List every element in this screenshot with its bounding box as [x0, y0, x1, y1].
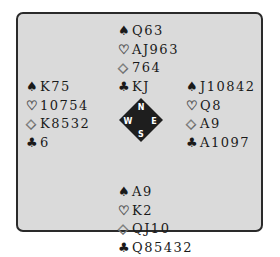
west-diamonds: ◇K8532 [26, 115, 90, 134]
west-clubs-cards: 6 [40, 135, 50, 150]
south-clubs-cards: Q85432 [132, 240, 193, 255]
club-icon: ♣ [186, 134, 200, 153]
diamond-icon: ◇ [118, 220, 132, 239]
east-hearts: ♡Q8 [186, 97, 256, 116]
south-spades: ♠A9 [118, 183, 193, 202]
south-hearts-cards: K2 [132, 203, 153, 218]
north-clubs: ♣KJ [118, 78, 179, 97]
east-spades-cards: J10842 [200, 79, 256, 94]
west-clubs: ♣6 [26, 134, 90, 153]
south-hearts: ♡K2 [118, 202, 193, 221]
compass-west: W [124, 117, 133, 126]
east-clubs-cards: A1097 [200, 135, 250, 150]
north-hand: ♠Q63 ♡AJ963 ◇764 ♣KJ [118, 22, 179, 96]
west-hearts-cards: 10754 [40, 98, 89, 113]
spade-icon: ♠ [118, 183, 132, 202]
south-diamonds: ◇QJ10 [118, 220, 193, 239]
compass-rose: N S W E [118, 97, 164, 143]
north-spades: ♠Q63 [118, 22, 179, 41]
east-hearts-cards: Q8 [200, 98, 222, 113]
east-diamonds: ◇A9 [186, 115, 256, 134]
east-hand: ♠J10842 ♡Q8 ◇A9 ♣A1097 [186, 78, 256, 152]
heart-icon: ♡ [186, 97, 200, 116]
heart-icon: ♡ [118, 41, 132, 60]
north-spades-cards: Q63 [132, 23, 164, 38]
north-hearts: ♡AJ963 [118, 41, 179, 60]
north-diamonds-cards: 764 [132, 60, 161, 75]
club-icon: ♣ [26, 134, 40, 153]
club-icon: ♣ [118, 78, 132, 97]
heart-icon: ♡ [26, 97, 40, 116]
south-diamonds-cards: QJ10 [132, 221, 170, 236]
compass-north: N [138, 103, 145, 112]
club-icon: ♣ [118, 239, 132, 257]
south-hand: ♠A9 ♡K2 ◇QJ10 ♣Q85432 [118, 183, 193, 257]
east-diamonds-cards: A9 [200, 116, 221, 131]
west-hearts: ♡10754 [26, 97, 90, 116]
spade-icon: ♠ [118, 22, 132, 41]
compass-diamond-icon: N S W E [118, 97, 164, 143]
compass-south: S [138, 130, 144, 139]
north-hearts-cards: AJ963 [132, 42, 179, 57]
spade-icon: ♠ [186, 78, 200, 97]
spade-icon: ♠ [26, 78, 40, 97]
west-diamonds-cards: K8532 [40, 116, 90, 131]
south-spades-cards: A9 [132, 184, 153, 199]
heart-icon: ♡ [118, 202, 132, 221]
diamond-icon: ◇ [186, 115, 200, 134]
north-clubs-cards: KJ [132, 79, 150, 94]
east-spades: ♠J10842 [186, 78, 256, 97]
east-clubs: ♣A1097 [186, 134, 256, 153]
west-hand: ♠K75 ♡10754 ◇K8532 ♣6 [26, 78, 90, 152]
north-diamonds: ◇764 [118, 59, 179, 78]
compass-east: E [151, 117, 156, 126]
diamond-icon: ◇ [26, 115, 40, 134]
diamond-icon: ◇ [118, 59, 132, 78]
west-spades-cards: K75 [40, 79, 71, 94]
south-clubs: ♣Q85432 [118, 239, 193, 257]
west-spades: ♠K75 [26, 78, 90, 97]
